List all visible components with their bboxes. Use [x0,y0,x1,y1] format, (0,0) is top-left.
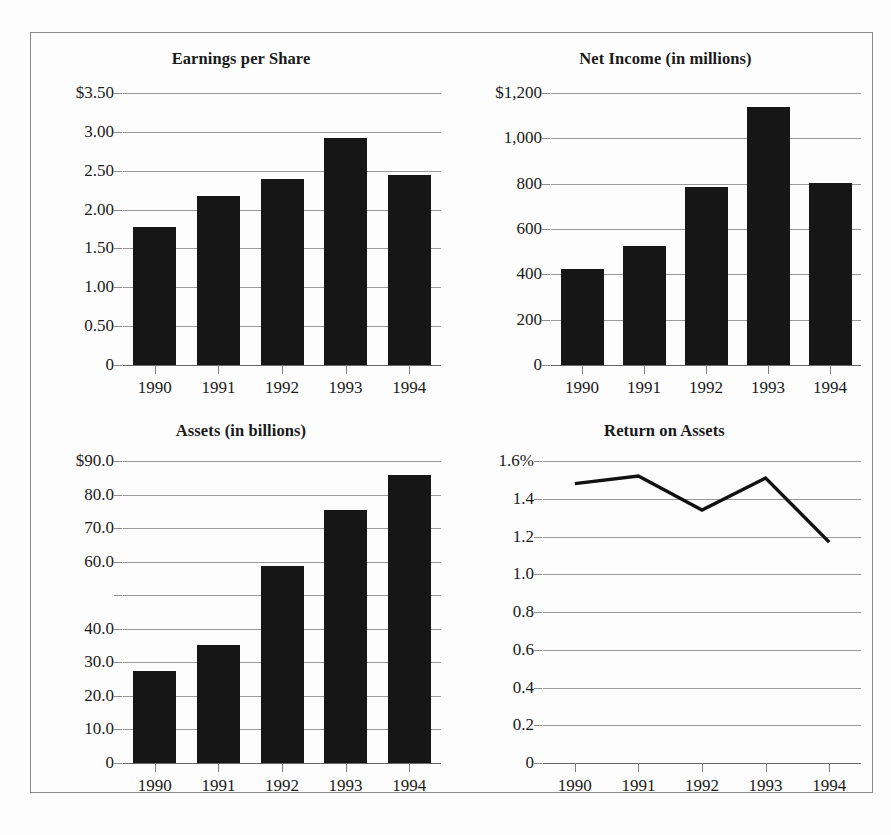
y-axis-label-earnings-per-share: 1.00 [84,277,114,297]
x-axis-label-return-on-assets: 1991 [621,776,655,796]
x-axis-label-earnings-per-share: 1990 [138,378,172,398]
y-tick-mark-assets-in-billions [114,528,122,529]
x-tick-mark-net-income-in-millions [582,365,583,374]
y-tick-mark-net-income-in-millions [542,274,550,275]
bar-net-income-in-millions-1993 [747,107,790,365]
chart-title-assets: Assets (in billions) [31,421,451,441]
y-axis-label-net-income-in-millions: 0 [534,355,543,375]
x-tick-mark-earnings-per-share [409,365,410,374]
bar-earnings-per-share-1993 [324,138,367,365]
y-axis-label-return-on-assets: 1.0 [513,564,534,584]
y-tick-mark-earnings-per-share [114,132,122,133]
y-tick-mark-net-income-in-millions [542,184,550,185]
chart-panel-assets: Assets (in billions) $90.080.070.060.040… [31,403,451,792]
y-axis-label-net-income-in-millions: 1,000 [504,128,542,148]
y-tick-mark-assets-in-billions [114,763,122,764]
x-tick-mark-return-on-assets [702,763,703,772]
chart-title-earnings-per-share: Earnings per Share [31,49,451,69]
y-axis-label-assets-in-billions: 80.0 [84,485,114,505]
y-axis-label-assets-in-billions: 60.0 [84,552,114,572]
gridline-earnings-per-share [123,132,441,133]
x-tick-mark-net-income-in-millions [830,365,831,374]
gridline-net-income-in-millions [551,138,861,139]
y-tick-mark-return-on-assets [534,763,542,764]
y-tick-mark-earnings-per-share [114,93,122,94]
y-tick-mark-return-on-assets [534,537,542,538]
chart-title-net-income: Net Income (in millions) [451,49,874,69]
plot-area-net-income: $1,2001,00080060040020001990199119921993… [551,93,861,365]
y-tick-mark-earnings-per-share [114,326,122,327]
gridline-earnings-per-share [123,171,441,172]
y-tick-mark-net-income-in-millions [542,320,550,321]
y-axis-label-return-on-assets: 0.6 [513,640,534,660]
x-axis-label-earnings-per-share: 1992 [265,378,299,398]
x-tick-mark-return-on-assets [829,763,830,772]
x-axis-label-assets-in-billions: 1993 [329,776,363,796]
x-tick-mark-return-on-assets [766,763,767,772]
plot-area-return-on-assets: 1.6%1.41.21.00.80.60.40.2019901991199219… [543,461,861,763]
x-tick-mark-return-on-assets [575,763,576,772]
bar-net-income-in-millions-1992 [685,187,728,365]
y-tick-mark-assets-in-billions [114,595,122,596]
bar-net-income-in-millions-1990 [561,269,604,365]
x-axis-label-assets-in-billions: 1994 [392,776,426,796]
x-axis-label-earnings-per-share: 1994 [392,378,426,398]
x-tick-mark-earnings-per-share [218,365,219,374]
bar-assets-in-billions-1994 [388,475,431,763]
x-axis-label-return-on-assets: 1992 [685,776,719,796]
x-axis-label-earnings-per-share: 1991 [201,378,235,398]
x-tick-mark-net-income-in-millions [768,365,769,374]
bar-assets-in-billions-1992 [261,566,304,763]
y-axis-label-assets-in-billions: 0 [106,753,115,773]
x-axis-label-return-on-assets: 1990 [558,776,592,796]
y-axis-label-net-income-in-millions: $1,200 [495,83,542,103]
bar-assets-in-billions-1991 [197,645,240,763]
plot-area-earnings-per-share: $3.503.002.502.001.501.000.5001990199119… [123,93,441,365]
figure-frame: Earnings per Share $3.503.002.502.001.50… [30,32,873,793]
y-tick-mark-return-on-assets [534,574,542,575]
x-axis-label-net-income-in-millions: 1992 [689,378,723,398]
x-axis-label-net-income-in-millions: 1991 [627,378,661,398]
y-axis-label-earnings-per-share: 2.50 [84,161,114,181]
y-axis-label-earnings-per-share: 2.00 [84,200,114,220]
bar-assets-in-billions-1990 [133,671,176,763]
y-tick-mark-earnings-per-share [114,171,122,172]
x-axis-label-net-income-in-millions: 1990 [565,378,599,398]
bar-earnings-per-share-1992 [261,179,304,366]
y-tick-mark-assets-in-billions [114,495,122,496]
y-axis-label-earnings-per-share: 0 [106,355,115,375]
x-tick-mark-assets-in-billions [218,763,219,772]
y-tick-mark-assets-in-billions [114,729,122,730]
y-tick-mark-return-on-assets [534,688,542,689]
y-tick-mark-net-income-in-millions [542,138,550,139]
y-axis-label-earnings-per-share: 3.00 [84,122,114,142]
y-tick-mark-return-on-assets [534,650,542,651]
y-tick-mark-net-income-in-millions [542,229,550,230]
y-tick-mark-earnings-per-share [114,365,122,366]
x-tick-mark-net-income-in-millions [706,365,707,374]
y-axis-label-net-income-in-millions: 600 [517,219,543,239]
x-axis-label-assets-in-billions: 1992 [265,776,299,796]
chart-panel-net-income: Net Income (in millions) $1,2001,0008006… [451,35,874,403]
y-axis-label-return-on-assets: 1.6% [499,451,534,471]
x-axis-label-assets-in-billions: 1990 [138,776,172,796]
bar-net-income-in-millions-1991 [623,246,666,365]
chart-panel-earnings-per-share: Earnings per Share $3.503.002.502.001.50… [31,35,451,403]
x-tick-mark-earnings-per-share [155,365,156,374]
x-tick-mark-assets-in-billions [346,763,347,772]
y-axis-label-return-on-assets: 0.2 [513,715,534,735]
x-tick-mark-return-on-assets [638,763,639,772]
y-axis-label-earnings-per-share: $3.50 [76,83,114,103]
y-tick-mark-net-income-in-millions [542,365,550,366]
bar-net-income-in-millions-1994 [809,183,852,365]
line-path-return-on-assets [575,476,829,542]
y-axis-label-return-on-assets: 1.4 [513,489,534,509]
x-axis-label-assets-in-billions: 1991 [201,776,235,796]
y-tick-mark-earnings-per-share [114,287,122,288]
x-tick-mark-earnings-per-share [346,365,347,374]
x-axis-label-net-income-in-millions: 1994 [813,378,847,398]
y-axis-label-return-on-assets: 0.8 [513,602,534,622]
bar-earnings-per-share-1991 [197,196,240,365]
y-axis-label-return-on-assets: 0.4 [513,678,534,698]
x-axis-label-return-on-assets: 1993 [749,776,783,796]
